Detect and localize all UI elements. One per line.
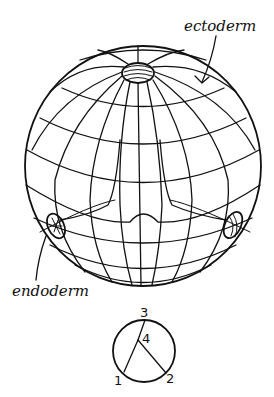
apical-pore [122, 63, 154, 83]
key-point-4: 4 [142, 332, 150, 345]
endoderm-leader [36, 236, 46, 280]
endoderm-label: endoderm [12, 282, 89, 300]
gastrula-diagram: ectoderm endoderm 3 4 1 2 [0, 0, 274, 397]
key-point-3: 3 [140, 306, 148, 319]
sphere-drawing [0, 0, 274, 397]
ectoderm-label: ectoderm [184, 17, 256, 35]
key-point-2: 2 [166, 372, 174, 385]
key-point-1: 1 [114, 374, 122, 387]
endoderm-pit-right [220, 209, 246, 241]
